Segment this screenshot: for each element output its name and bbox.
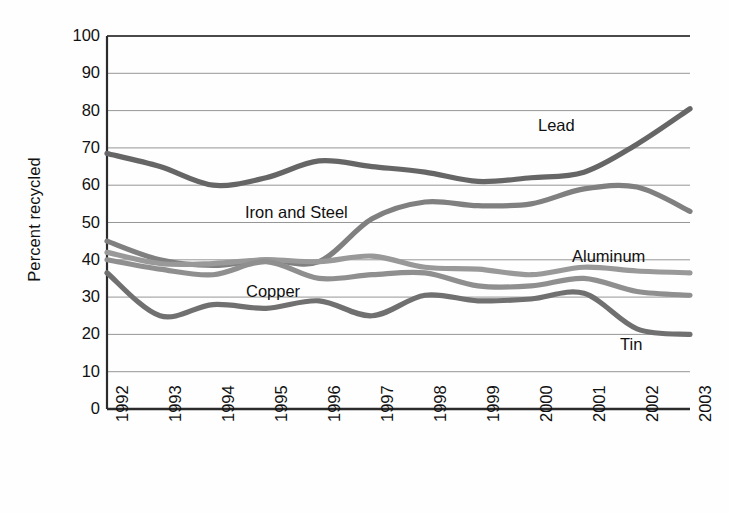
x-tick-label: 1998: [432, 385, 449, 422]
series-label-iron-and-steel: Iron and Steel: [245, 204, 348, 221]
series-label-copper: Copper: [246, 283, 300, 300]
x-tick-label: 1997: [379, 385, 396, 422]
x-tick-label: 2001: [591, 385, 608, 422]
series-label-tin: Tin: [620, 336, 642, 353]
x-tick-label: 2003: [697, 385, 714, 422]
series-label-aluminum: Aluminum: [572, 248, 645, 265]
x-tick-label: 1996: [326, 385, 343, 422]
x-tick-label: 1993: [167, 385, 184, 422]
chart-figure: Percent recycled 1009080706050403020100 …: [0, 0, 729, 513]
x-tick-label: 1995: [273, 385, 290, 422]
x-tick-label: 2002: [644, 385, 661, 422]
x-tick-label: 1994: [220, 385, 237, 422]
x-tick-label: 1992: [114, 385, 131, 422]
series-label-lead: Lead: [538, 117, 575, 134]
x-tick-label: 2000: [538, 385, 555, 422]
x-tick-label: 1999: [485, 385, 502, 422]
